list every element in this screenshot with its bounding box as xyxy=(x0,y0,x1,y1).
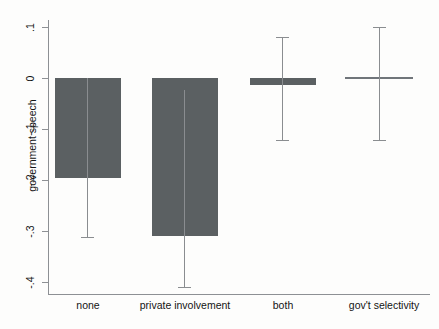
y-tick-label-0: .1 xyxy=(25,18,36,38)
x-axis-line xyxy=(48,294,430,295)
y-tick-label-2: -.1 xyxy=(25,120,36,140)
x-axis-label-both: both xyxy=(243,299,323,311)
y-tick-label-1: 0 xyxy=(25,69,36,89)
error-bar-both xyxy=(282,37,283,140)
y-tick-mark-3 xyxy=(42,180,48,181)
x-axis-label-private-involvement: private involvement xyxy=(125,299,245,311)
x-axis-label-govt-selectivity: gov't selectivity xyxy=(330,299,438,311)
y-tick-mark-1 xyxy=(42,78,48,79)
chart-container: government speech .1 0 -.1 -.2 -.3 -.4 n… xyxy=(0,0,439,329)
y-tick-label-5: -.4 xyxy=(25,273,36,293)
y-tick-label-3: -.2 xyxy=(25,171,36,191)
y-axis-line xyxy=(48,20,49,295)
y-tick-label-4: -.3 xyxy=(25,222,36,242)
error-bar-private-involvement xyxy=(184,90,185,287)
x-axis-label-none: none xyxy=(48,299,128,311)
bar-both xyxy=(250,78,316,85)
error-bar-cap-lower-none xyxy=(81,237,94,238)
y-axis-title: government speech xyxy=(27,76,38,216)
y-tick-mark-2 xyxy=(42,129,48,130)
error-bar-cap-lower-both xyxy=(276,140,289,141)
error-bar-cap-upper-govt-selectivity xyxy=(373,27,386,28)
y-tick-mark-0 xyxy=(42,27,48,28)
error-bar-cap-lower-govt-selectivity xyxy=(373,140,386,141)
bar-private-involvement xyxy=(152,78,218,236)
y-tick-mark-4 xyxy=(42,231,48,232)
y-tick-mark-5 xyxy=(42,282,48,283)
bar-none xyxy=(55,78,121,178)
error-bar-cap-upper-both xyxy=(276,37,289,38)
error-bar-none xyxy=(87,78,88,237)
error-bar-cap-lower-private-involvement xyxy=(178,287,191,288)
error-bar-govt-selectivity xyxy=(379,27,380,140)
